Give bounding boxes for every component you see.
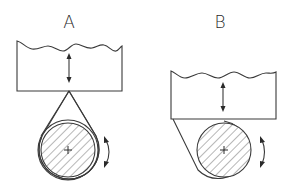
diagram-b: B bbox=[171, 12, 276, 180]
vertical-double-arrow-icon bbox=[221, 82, 226, 112]
roller-a bbox=[38, 120, 98, 180]
vertical-double-arrow-icon bbox=[67, 53, 72, 83]
label-b: B bbox=[214, 12, 225, 32]
roller-b bbox=[194, 120, 254, 180]
curved-double-arrow-icon bbox=[260, 136, 265, 168]
diagram-canvas: A bbox=[0, 0, 288, 194]
diagram-a: A bbox=[17, 12, 122, 180]
curved-double-arrow-icon bbox=[104, 136, 109, 168]
label-a: A bbox=[63, 12, 75, 32]
